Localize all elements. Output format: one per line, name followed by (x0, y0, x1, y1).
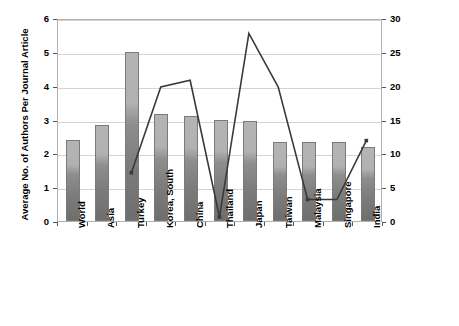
y-right-tick (382, 19, 386, 20)
x-axis-label-taiwan: Taiwan (283, 197, 294, 229)
gridline (58, 54, 381, 55)
y-left-tick-label: 5 (19, 47, 49, 58)
y-right-tick-label: 25 (390, 47, 420, 58)
y-right-tick-label: 20 (390, 81, 420, 92)
y-right-tick-label: 30 (390, 13, 420, 24)
y-right-tick-label: 0 (390, 216, 420, 227)
x-axis-tick (175, 222, 176, 226)
y-right-tick (382, 121, 386, 122)
y-left-tick-label: 0 (19, 216, 49, 227)
x-axis-label-korea-south: Korea, South (164, 169, 175, 228)
y-left-tick-label: 2 (19, 148, 49, 159)
x-axis-tick (57, 222, 58, 226)
x-axis-tick (382, 222, 383, 226)
y-right-tick (382, 188, 386, 189)
x-axis-label-china: China (194, 202, 205, 228)
y-right-tick-label: 5 (390, 182, 420, 193)
y-right-tick (382, 87, 386, 88)
x-axis-label-malaysia: Malaysia (312, 188, 323, 228)
x-axis-label-world: World (76, 201, 87, 228)
y-right-tick (382, 53, 386, 54)
y-left-tick-label: 3 (19, 115, 49, 126)
y-right-tick-label: 15 (390, 115, 420, 126)
x-axis-label-japan: Japan (253, 201, 264, 228)
y-left-tick (53, 121, 57, 122)
y-left-tick (53, 188, 57, 189)
y-left-tick-label: 1 (19, 182, 49, 193)
plot-area (57, 19, 382, 222)
chart-container: Average No. of Authors Per Journal Artic… (0, 0, 459, 326)
gridline (58, 20, 381, 21)
x-axis-label-asia: Asia (105, 208, 116, 228)
x-axis-label-thailand: Thailand (224, 189, 235, 228)
x-axis-label-turkey: Turkey (135, 198, 146, 228)
gridline (58, 88, 381, 89)
x-axis-tick (116, 222, 117, 226)
x-axis-label-singapore: Singapore (342, 182, 353, 228)
y-right-tick-label: 10 (390, 148, 420, 159)
y-right-tick (382, 154, 386, 155)
y-left-tick (53, 19, 57, 20)
x-axis-tick (323, 222, 324, 226)
y-left-tick (53, 154, 57, 155)
bar-turkey (125, 52, 139, 221)
y-left-tick-label: 6 (19, 13, 49, 24)
y-left-tick (53, 87, 57, 88)
bar-asia (95, 125, 109, 221)
line-marker (365, 139, 369, 143)
y-left-tick-label: 4 (19, 81, 49, 92)
y-left-tick (53, 53, 57, 54)
x-axis-label-india: India (371, 206, 382, 228)
